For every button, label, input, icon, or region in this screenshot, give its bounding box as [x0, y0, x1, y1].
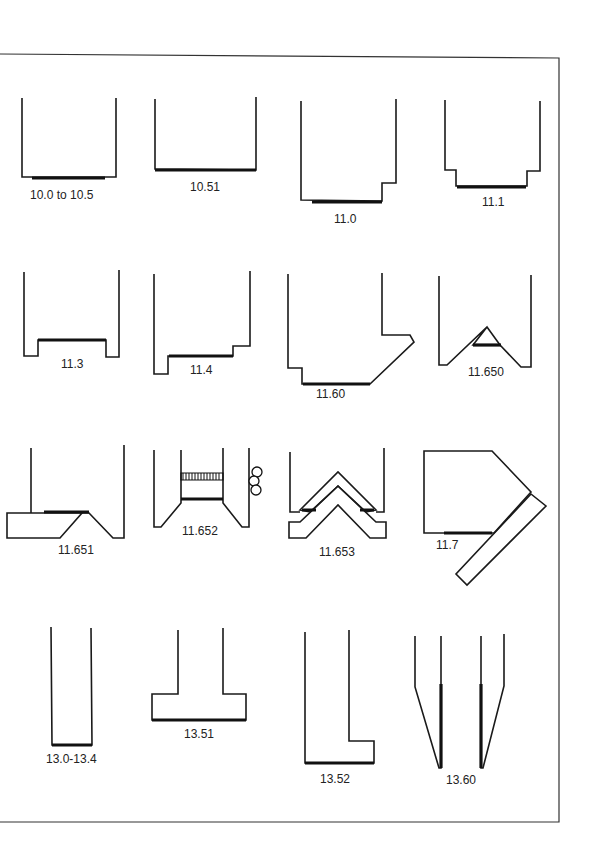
profile-10-0: 10.0 to 10.5	[22, 98, 116, 202]
profile-13-51: 13.51	[152, 628, 246, 741]
profile-11-652: 11.652	[154, 448, 262, 538]
profile-11-650: 11.650	[439, 275, 531, 379]
label-11-4: 11.4	[190, 363, 213, 377]
label-11-3: 11.3	[61, 357, 84, 371]
label-13-52: 13.52	[320, 772, 350, 786]
profile-11-3: 11.3	[24, 270, 119, 371]
profile-11-7: 11.7	[424, 451, 546, 585]
label-11-652: 11.652	[182, 524, 218, 538]
profile-13-60: 13.60	[415, 634, 504, 787]
label-10-51: 10.51	[190, 180, 220, 194]
profile-11-1: 11.1	[445, 100, 540, 209]
label-13-51: 13.51	[184, 727, 214, 741]
profile-11-4: 11.4	[154, 271, 250, 377]
profile-11-651: 11.651	[7, 445, 124, 557]
diagram-canvas: 10.0 to 10.5 10.51 11.0 11.1 11.3 11.4 1…	[0, 0, 592, 855]
label-11-1: 11.1	[482, 195, 505, 209]
profile-13-0: 13.0-13.4	[46, 627, 97, 766]
profile-10-51: 10.51	[155, 97, 256, 194]
label-10-0: 10.0 to 10.5	[30, 188, 94, 202]
label-13-60: 13.60	[446, 773, 476, 787]
label-11-650: 11.650	[468, 365, 504, 379]
profile-11-60: 11.60	[288, 273, 414, 401]
label-13-0: 13.0-13.4	[46, 752, 97, 766]
label-11-0: 11.0	[334, 212, 357, 226]
profile-11-0: 11.0	[301, 99, 396, 226]
label-11-60: 11.60	[316, 387, 345, 401]
label-11-653: 11.653	[319, 545, 355, 559]
label-11-651: 11.651	[58, 543, 94, 557]
label-11-7: 11.7	[436, 538, 459, 552]
page-frame	[0, 54, 559, 822]
profile-13-52: 13.52	[305, 630, 374, 786]
profile-11-653: 11.653	[289, 448, 386, 559]
